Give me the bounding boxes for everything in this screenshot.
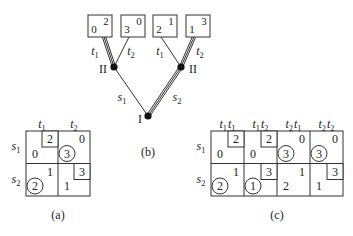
payoff-p1: 2 [283, 179, 289, 193]
payoff-p2: 3 [201, 15, 207, 27]
payoff-p1: 1 [316, 179, 322, 193]
player-label: II [99, 62, 107, 76]
payoff-p1: 0 [217, 147, 223, 161]
payoff-p1: 3 [64, 147, 70, 161]
payoff-p2: 1 [233, 165, 239, 179]
payoff-p1: 3 [124, 23, 130, 35]
payoff-p1: 3 [283, 147, 289, 161]
payoff-p1: 3 [316, 147, 322, 161]
decision-node-root [144, 112, 151, 119]
player-label: II [189, 62, 197, 76]
decision-node [110, 63, 117, 70]
payoff-p2: 0 [299, 132, 305, 146]
row-header: s1​ [197, 139, 206, 155]
col-header: t2​t1​ [285, 117, 301, 133]
payoff-matrix-c: t1​t1​t1​t2​t2​t1​t2​t2​s1​s2​2020030312… [197, 117, 343, 222]
row-header: s1​ [12, 139, 21, 155]
payoff-p2: 2 [266, 132, 272, 146]
action-label-s1: s1​ [118, 90, 127, 106]
payoff-p2: 3 [266, 165, 272, 179]
col-header: t2​t2​ [318, 117, 334, 133]
game-figure: s1​s2​0230t1​t2​II2113t1​t2​III(b) t1​t2… [0, 0, 353, 236]
payoff-p2: 0 [79, 132, 85, 146]
payoff-p2: 2 [47, 132, 53, 146]
payoff-p1: 2 [156, 23, 162, 35]
payoff-p2: 3 [332, 165, 338, 179]
payoff-p2: 1 [299, 165, 305, 179]
payoff-p1: 2 [217, 179, 223, 193]
game-tree: s1​s2​0230t1​t2​II2113t1​t2​III(b) [88, 15, 210, 159]
edge-2-t1 [161, 37, 181, 67]
payoff-p2: 2 [233, 132, 239, 146]
action-label-t2: t2​ [127, 44, 135, 60]
payoff-p1: 0 [250, 147, 256, 161]
player-label-root: I [138, 112, 142, 126]
action-label-s2: s2​ [173, 90, 182, 106]
payoff-p1: 1 [64, 179, 70, 193]
payoff-p1: 0 [32, 147, 38, 161]
caption: (c) [270, 208, 283, 222]
caption-b: (b) [141, 145, 155, 159]
payoff-p1: 1 [250, 179, 256, 193]
payoff-p2: 2 [103, 15, 109, 27]
row-header: s2​ [12, 172, 21, 188]
col-header: t2​ [70, 117, 78, 133]
payoff-matrix-a: t1​t2​s1​s2​20031231(a) [12, 117, 90, 222]
payoff-p2: 1 [168, 15, 174, 27]
decision-node [177, 63, 184, 70]
action-label-t2: t2​ [196, 44, 204, 60]
payoff-p1: 2 [32, 179, 38, 193]
payoff-p1: 1 [189, 23, 195, 35]
payoff-p2: 3 [79, 165, 85, 179]
row-header: s2​ [197, 172, 206, 188]
payoff-p2: 0 [332, 132, 338, 146]
action-label-t1: t1​ [156, 44, 164, 60]
caption: (a) [51, 208, 64, 222]
payoff-p1: 0 [91, 23, 97, 35]
payoff-p2: 1 [47, 165, 53, 179]
action-label-t1: t1​ [91, 44, 99, 60]
payoff-p2: 0 [136, 15, 142, 27]
